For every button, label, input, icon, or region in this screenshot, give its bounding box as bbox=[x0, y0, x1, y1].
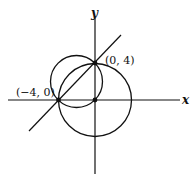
point-label-neg4-0: (−4, 0) bbox=[16, 87, 55, 98]
diagram-canvas: y x (0, 4) (−4, 0) bbox=[0, 0, 192, 182]
point-label-0-4: (0, 4) bbox=[105, 55, 135, 66]
line-y-equals-x-plus-4 bbox=[29, 35, 121, 131]
point-0-4 bbox=[93, 61, 98, 66]
point-origin bbox=[93, 98, 98, 103]
point-neg4-0 bbox=[56, 98, 61, 103]
x-axis-label: x bbox=[182, 94, 189, 106]
y-axis-label: y bbox=[91, 7, 98, 19]
